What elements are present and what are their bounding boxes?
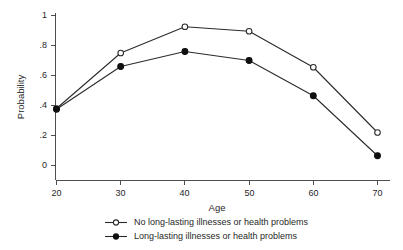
data-point bbox=[310, 93, 316, 99]
legend-entry-no-illness[interactable]: No long-lasting illnesses or health prob… bbox=[105, 217, 309, 227]
chart-background bbox=[0, 0, 403, 250]
chart-figure: 1 .8 .6 .4 .2 0 Probability 20 30 40 50 … bbox=[0, 0, 403, 250]
y-axis-title: Probability bbox=[15, 75, 26, 120]
x-tick-label-60: 60 bbox=[308, 188, 318, 198]
data-point bbox=[375, 130, 381, 136]
data-point bbox=[246, 58, 252, 64]
y-tick-label-1: 1 bbox=[42, 10, 47, 20]
legend-label-illness: Long-lasting illnesses or health problem… bbox=[134, 231, 298, 241]
x-tick-label-20: 20 bbox=[51, 188, 61, 198]
data-point bbox=[54, 106, 60, 112]
data-point bbox=[375, 153, 381, 159]
y-tick-label-06: .6 bbox=[39, 70, 47, 80]
filled-circle-icon bbox=[113, 234, 118, 239]
y-tick-label-02: .2 bbox=[39, 130, 47, 140]
legend-label-no-illness: No long-lasting illnesses or health prob… bbox=[134, 217, 309, 227]
data-point bbox=[311, 64, 317, 70]
legend-entry-illness[interactable]: Long-lasting illnesses or health problem… bbox=[105, 231, 298, 241]
data-point bbox=[246, 28, 252, 34]
y-tick-label-04: .4 bbox=[39, 100, 47, 110]
data-point bbox=[118, 64, 124, 70]
x-axis-title: Age bbox=[209, 202, 226, 213]
y-tick-label-08: .8 bbox=[39, 40, 47, 50]
open-circle-icon bbox=[113, 220, 118, 225]
chart-canvas: 1 .8 .6 .4 .2 0 Probability 20 30 40 50 … bbox=[0, 0, 403, 250]
y-tick-label-0: 0 bbox=[42, 160, 47, 170]
x-tick-label-40: 40 bbox=[179, 188, 189, 198]
data-point bbox=[118, 50, 124, 56]
data-point bbox=[182, 24, 188, 30]
x-tick-label-70: 70 bbox=[372, 188, 382, 198]
x-tick-label-50: 50 bbox=[244, 188, 254, 198]
x-tick-label-30: 30 bbox=[115, 188, 125, 198]
data-point bbox=[182, 49, 188, 55]
